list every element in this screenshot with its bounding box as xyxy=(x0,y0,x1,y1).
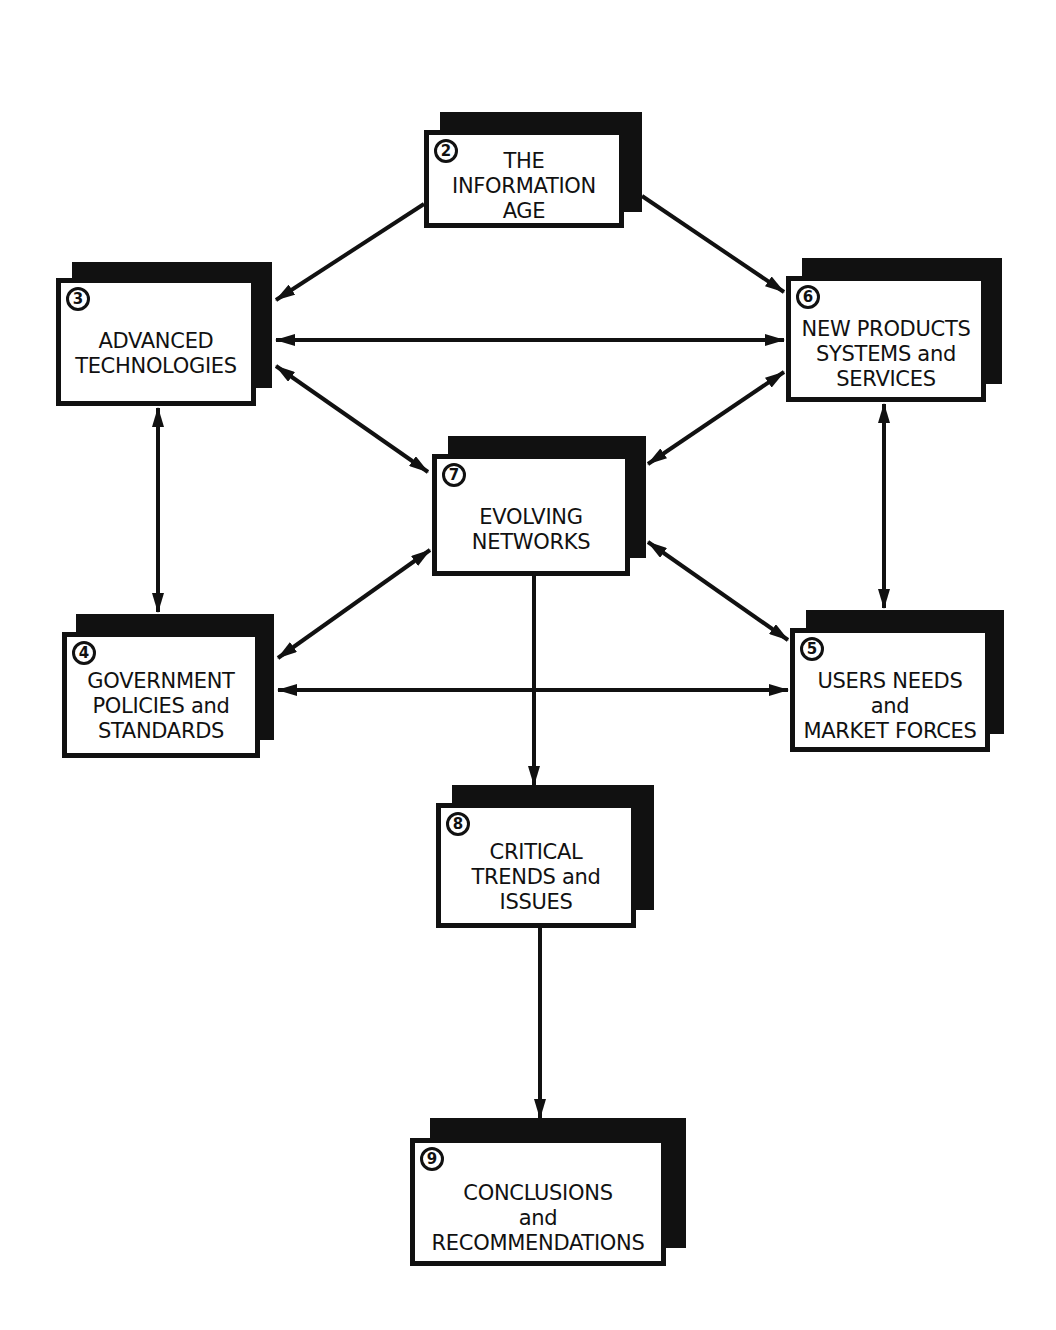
node-conclusions-recommendations: 9 CONCLUSIONS and RECOMMENDATIONS xyxy=(410,1118,686,1266)
node-new-products-systems-services: 6 NEW PRODUCTS SYSTEMS and SERVICES xyxy=(786,258,1002,402)
arrow-2-to-3 xyxy=(276,204,424,300)
node-box: 7 EVOLVING NETWORKS xyxy=(432,454,630,576)
circled-number-3: 3 xyxy=(66,287,90,311)
node-box: 9 CONCLUSIONS and RECOMMENDATIONS xyxy=(410,1138,666,1266)
node-information-age: 2 THE INFORMATION AGE xyxy=(424,112,642,228)
circled-number-9: 9 xyxy=(420,1147,444,1171)
arrow-3-to-7 xyxy=(276,366,428,472)
arrow-7-to-4 xyxy=(278,550,430,658)
circled-number-4: 4 xyxy=(72,641,96,665)
arrow-7-to-5 xyxy=(648,542,788,640)
node-critical-trends-issues: 8 CRITICAL TRENDS and ISSUES xyxy=(436,785,654,928)
circled-number-6: 6 xyxy=(796,285,820,309)
circled-number-5: 5 xyxy=(800,637,824,661)
node-box: 4 GOVERNMENT POLICIES and STANDARDS xyxy=(62,632,260,758)
node-box: 6 NEW PRODUCTS SYSTEMS and SERVICES xyxy=(786,276,986,402)
circled-number-8: 8 xyxy=(446,812,470,836)
node-label: GOVERNMENT POLICIES and STANDARDS xyxy=(67,669,255,744)
node-users-needs-market-forces: 5 USERS NEEDS and MARKET FORCES xyxy=(790,610,1004,752)
node-evolving-networks: 7 EVOLVING NETWORKS xyxy=(432,436,646,576)
node-label: CONCLUSIONS and RECOMMENDATIONS xyxy=(415,1181,661,1256)
node-box: 8 CRITICAL TRENDS and ISSUES xyxy=(436,803,636,928)
node-advanced-technologies: 3 ADVANCED TECHNOLOGIES xyxy=(56,262,272,406)
node-box: 3 ADVANCED TECHNOLOGIES xyxy=(56,278,256,406)
node-box: 2 THE INFORMATION AGE xyxy=(424,130,624,228)
node-box: 5 USERS NEEDS and MARKET FORCES xyxy=(790,628,990,752)
node-label: USERS NEEDS and MARKET FORCES xyxy=(795,669,985,744)
diagram-page: 2 THE INFORMATION AGE 3 ADVANCED TECHNOL… xyxy=(0,0,1056,1330)
node-label: NEW PRODUCTS SYSTEMS and SERVICES xyxy=(791,317,981,392)
arrow-6-to-7 xyxy=(648,372,784,464)
arrow-2-to-6 xyxy=(642,196,784,292)
node-label: EVOLVING NETWORKS xyxy=(437,505,625,555)
circled-number-7: 7 xyxy=(442,463,466,487)
node-label: CRITICAL TRENDS and ISSUES xyxy=(441,840,631,915)
node-label: THE INFORMATION AGE xyxy=(429,149,619,224)
node-government-policies-standards: 4 GOVERNMENT POLICIES and STANDARDS xyxy=(62,614,274,758)
node-label: ADVANCED TECHNOLOGIES xyxy=(61,329,251,379)
